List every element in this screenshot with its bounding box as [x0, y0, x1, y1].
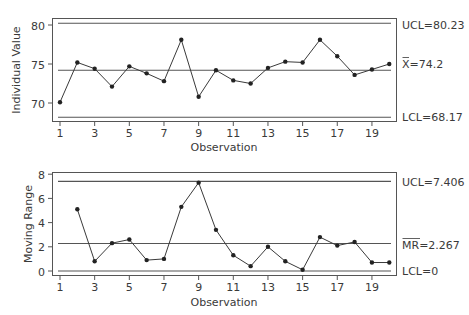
y-axis-label: Individual Value	[10, 26, 23, 114]
data-point	[92, 66, 96, 70]
data-point	[300, 60, 304, 64]
y-tick-label: 75	[31, 59, 45, 72]
moving-range-chart: 02468 135791113151719 Moving Range Obser…	[22, 169, 465, 309]
y-tick-label: 0	[38, 266, 45, 279]
x-tick-label: 11	[226, 127, 240, 140]
data-point	[387, 62, 391, 66]
center-value: =2.267	[419, 239, 460, 252]
mr-bar-symbol: MR	[402, 239, 419, 252]
data-point	[179, 205, 183, 209]
individuals-chart: 707580 135791113151719 Individual Value …	[10, 19, 465, 155]
data-point	[248, 264, 252, 268]
series-line	[60, 40, 389, 102]
data-series	[58, 38, 392, 105]
data-point	[318, 235, 322, 239]
data-point	[300, 268, 304, 272]
data-point	[335, 54, 339, 58]
x-tick-label: 5	[126, 127, 133, 140]
ucl-label: UCL=80.23	[402, 19, 465, 32]
data-point	[110, 241, 114, 245]
x-axis-label: Observation	[191, 141, 258, 154]
data-point	[196, 180, 200, 184]
ucl-label: UCL=7.406	[402, 176, 465, 189]
data-point	[370, 67, 374, 71]
center-label: X=74.2	[402, 58, 443, 71]
data-point	[318, 38, 322, 42]
data-point	[162, 79, 166, 83]
x-axis-ticks: 135791113151719	[57, 276, 379, 294]
data-point	[266, 66, 270, 70]
y-tick-label: 70	[31, 98, 45, 111]
x-axis-ticks: 135791113151719	[57, 122, 379, 140]
y-tick-label: 4	[38, 217, 45, 230]
x-tick-label: 9	[195, 127, 202, 140]
data-series	[75, 180, 391, 272]
x-tick-label: 15	[296, 281, 310, 294]
data-point	[75, 60, 79, 64]
data-point	[144, 71, 148, 75]
x-axis-label: Observation	[191, 296, 258, 309]
x-tick-label: 7	[160, 281, 167, 294]
data-point	[248, 81, 252, 85]
data-point	[127, 237, 131, 241]
y-tick-label: 8	[38, 169, 45, 182]
x-tick-label: 3	[91, 127, 98, 140]
y-tick-label: 6	[38, 193, 45, 206]
data-point	[387, 260, 391, 264]
data-point	[352, 73, 356, 77]
data-point	[335, 243, 339, 247]
control-chart: 707580 135791113151719 Individual Value …	[0, 0, 469, 315]
center-value: =74.2	[410, 58, 444, 71]
lcl-label: LCL=68.17	[402, 111, 463, 124]
y-tick-label: 2	[38, 241, 45, 254]
data-point	[283, 59, 287, 63]
x-tick-label: 5	[126, 281, 133, 294]
control-limits	[58, 181, 391, 271]
data-point	[58, 100, 62, 104]
data-point	[196, 95, 200, 99]
data-point	[214, 228, 218, 232]
y-tick-label: 80	[31, 20, 45, 33]
data-point	[231, 253, 235, 257]
data-point	[370, 260, 374, 264]
data-point	[162, 257, 166, 261]
data-point	[110, 84, 114, 88]
x-tick-label: 9	[195, 281, 202, 294]
x-tick-label: 13	[261, 281, 275, 294]
x-tick-label: 17	[330, 281, 344, 294]
x-tick-label: 15	[296, 127, 310, 140]
x-tick-label: 1	[57, 127, 64, 140]
center-label: MR=2.267	[402, 239, 460, 252]
control-limits	[58, 23, 391, 117]
data-point	[231, 78, 235, 82]
x-tick-label: 19	[365, 281, 379, 294]
y-axis-label: Moving Range	[22, 185, 35, 263]
data-point	[283, 259, 287, 263]
x-tick-label: 17	[330, 127, 344, 140]
x-tick-label: 1	[57, 281, 64, 294]
data-point	[179, 38, 183, 42]
x-tick-label: 13	[261, 127, 275, 140]
x-tick-label: 3	[91, 281, 98, 294]
x-tick-label: 11	[226, 281, 240, 294]
data-point	[92, 259, 96, 263]
lcl-label: LCL=0	[402, 265, 438, 278]
x-tick-label: 19	[365, 127, 379, 140]
data-point	[75, 207, 79, 211]
data-point	[127, 64, 131, 68]
data-point	[144, 258, 148, 262]
data-point	[266, 245, 270, 249]
plot-frame	[53, 173, 397, 276]
data-point	[214, 68, 218, 72]
data-point	[352, 240, 356, 244]
x-tick-label: 7	[160, 127, 167, 140]
y-axis-ticks: 707580	[31, 20, 53, 111]
y-axis-ticks: 02468	[38, 169, 53, 279]
